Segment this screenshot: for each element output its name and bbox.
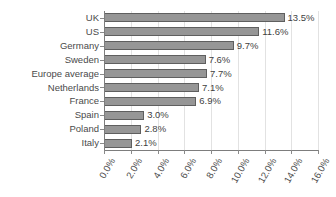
bar-value-label: 6.9% — [199, 94, 221, 108]
category-label: Europe average — [0, 67, 99, 81]
value-tick-label: 2.0% — [124, 156, 144, 180]
category-label: Netherlands — [0, 81, 99, 95]
category-label: Germany — [0, 39, 99, 53]
bar-value-label: 7.7% — [210, 67, 232, 81]
value-tick-label: 10.0% — [228, 156, 251, 185]
bar-value-label: 2.8% — [144, 122, 166, 136]
value-tick-label: 16.0% — [309, 156, 332, 185]
value-tick-label: 12.0% — [255, 156, 278, 185]
value-axis-ticks: 0.0%2.0%4.0%6.0%8.0%10.0%12.0%14.0%16.0% — [0, 150, 336, 197]
bar — [104, 13, 285, 22]
bar-chart: UKUSGermanySwedenEurope averageNetherlan… — [0, 0, 336, 197]
category-label: Spain — [0, 108, 99, 122]
bar-value-label: 2.1% — [135, 136, 157, 150]
value-tick-mark — [291, 150, 292, 154]
category-label: US — [0, 25, 99, 39]
bar-value-label: 7.6% — [209, 53, 231, 67]
bar — [104, 125, 141, 134]
bar — [104, 69, 207, 78]
value-tick-label: 0.0% — [97, 156, 117, 180]
gridline — [291, 11, 292, 150]
plot-area: 13.5%11.6%9.7%7.6%7.7%7.1%6.9%3.0%2.8%2.… — [104, 11, 318, 150]
bar — [104, 111, 144, 120]
category-label: Sweden — [0, 53, 99, 67]
value-tick-label: 8.0% — [204, 156, 224, 180]
category-label: Italy — [0, 136, 99, 150]
value-tick-mark — [158, 150, 159, 154]
value-tick-mark — [238, 150, 239, 154]
value-tick-mark — [104, 150, 105, 154]
bar — [104, 83, 199, 92]
bar-value-label: 3.0% — [147, 108, 169, 122]
bar — [104, 139, 132, 148]
bar-value-label: 7.1% — [202, 81, 224, 95]
bar — [104, 97, 196, 106]
value-tick-mark — [265, 150, 266, 154]
bar-value-label: 11.6% — [262, 25, 288, 39]
bar — [104, 27, 259, 36]
value-axis-zero-line — [104, 11, 105, 150]
bar — [104, 41, 234, 50]
category-label: Poland — [0, 122, 99, 136]
category-axis: UKUSGermanySwedenEurope averageNetherlan… — [0, 11, 101, 150]
category-label: UK — [0, 11, 99, 25]
bar — [104, 55, 206, 64]
bar-value-label: 13.5% — [288, 11, 315, 25]
category-label: France — [0, 94, 99, 108]
value-tick-mark — [131, 150, 132, 154]
value-tick-label: 6.0% — [177, 156, 197, 180]
value-tick-mark — [211, 150, 212, 154]
value-tick-mark — [184, 150, 185, 154]
bar-value-label: 9.7% — [237, 39, 259, 53]
gridline — [318, 11, 319, 150]
value-tick-mark — [318, 150, 319, 154]
value-tick-label: 14.0% — [282, 156, 305, 185]
value-tick-label: 4.0% — [151, 156, 171, 180]
